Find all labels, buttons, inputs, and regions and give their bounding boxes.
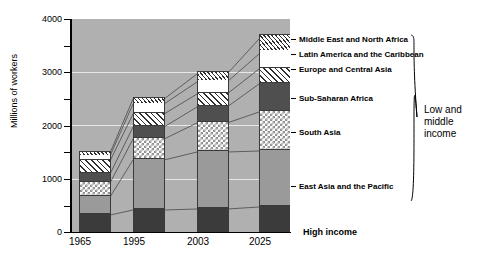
segment-2003-high-income xyxy=(198,208,228,231)
bar-1965[interactable] xyxy=(79,151,111,232)
segment-1965-south-asia xyxy=(80,182,110,196)
y-tick-1000 xyxy=(64,179,70,180)
segment-2003-sub-saharan-africa xyxy=(198,106,228,122)
leader-line-sub-saharan-africa xyxy=(291,98,296,99)
segment-1965-sub-saharan-africa xyxy=(80,173,110,182)
segment-1995-europe-and-central-asia xyxy=(134,113,164,126)
gridline-2000 xyxy=(72,125,290,126)
segment-1995-latin-america-and-the-caribbean xyxy=(134,103,164,113)
segment-2003-europe-and-central-asia xyxy=(198,93,228,106)
y-tick-2000 xyxy=(64,126,70,127)
y-axis-line xyxy=(70,19,72,233)
legend-item-south-asia[interactable]: South Asia xyxy=(299,128,340,137)
segment-1965-middle-east-and-north-africa xyxy=(80,152,110,155)
y-tick-label-1000: 1000 xyxy=(20,175,62,184)
segment-2025-south-asia xyxy=(260,111,290,150)
segment-1965-latin-america-and-the-caribbean xyxy=(80,155,110,160)
brace-label-line2: middle xyxy=(424,116,453,128)
segment-1965-high-income xyxy=(80,214,110,231)
segment-2025-east-asia-and-the-pacific xyxy=(260,150,290,206)
leader-line-south-asia xyxy=(291,132,296,133)
segment-1965-europe-and-central-asia xyxy=(80,160,110,173)
y-tick-4000 xyxy=(64,19,70,20)
y-axis-title: Millions of workers xyxy=(9,41,19,141)
leader-line-europe-central-asia xyxy=(291,69,296,70)
segment-1995-sub-saharan-africa xyxy=(134,126,164,138)
bar-1995[interactable] xyxy=(133,97,165,232)
legend-item-europe-and-central-asia[interactable]: Europe and Central Asia xyxy=(299,65,392,74)
segment-1965-east-asia-and-the-pacific xyxy=(80,196,110,214)
segment-2003-south-asia xyxy=(198,122,228,151)
segment-2025-sub-saharan-africa xyxy=(260,83,290,111)
segment-2025-high-income xyxy=(260,206,290,231)
y-tick-3500 xyxy=(64,46,70,47)
y-tick-label-4000: 4000 xyxy=(20,15,62,24)
segment-1995-high-income xyxy=(134,209,164,231)
x-tick-label-1965: 1965 xyxy=(54,236,106,247)
segment-1995-south-asia xyxy=(134,138,164,159)
y-tick-500 xyxy=(64,206,70,207)
legend-item-sub-saharan-africa[interactable]: Sub-Saharan Africa xyxy=(299,94,373,103)
segment-2025-latin-america-and-the-caribbean xyxy=(260,50,290,68)
x-tick-label-2025: 2025 xyxy=(234,236,286,247)
brace-label-line3: income xyxy=(424,128,456,140)
gridline-3000 xyxy=(72,72,290,73)
bar-2025[interactable] xyxy=(259,34,290,232)
leader-line-latin-america xyxy=(291,54,296,55)
segment-2025-middle-east-and-north-africa xyxy=(260,35,290,50)
segment-2003-latin-america-and-the-caribbean xyxy=(198,80,228,93)
x-tick-label-2003: 2003 xyxy=(172,236,224,247)
leader-line-east-asia-pacific xyxy=(291,186,296,187)
y-tick-1500 xyxy=(64,152,70,153)
legend-item-high-income[interactable]: High income xyxy=(303,228,357,237)
legend-item-latin-america-and-the-caribbean[interactable]: Latin America and the Caribbean xyxy=(299,50,424,59)
brace-label-line1: Low and xyxy=(424,104,462,116)
leader-line-middle-east xyxy=(291,39,296,40)
x-tick-label-1995: 1995 xyxy=(108,236,160,247)
legend-item-east-asia-and-the-pacific[interactable]: East Asia and the Pacific xyxy=(299,182,393,191)
y-tick-label-3000: 3000 xyxy=(20,68,62,77)
y-tick-label-2000: 2000 xyxy=(20,122,62,131)
segment-2003-middle-east-and-north-africa xyxy=(198,72,228,80)
legend-item-middle-east-and-north-africa[interactable]: Middle East and North Africa xyxy=(299,35,408,44)
chart-figure: 4000 3000 2000 1000 0 Millions of worker… xyxy=(0,0,480,272)
segment-1995-middle-east-and-north-africa xyxy=(134,98,164,103)
segment-2003-east-asia-and-the-pacific xyxy=(198,151,228,208)
x-axis-line xyxy=(70,232,291,233)
y-tick-2500 xyxy=(64,99,70,100)
segment-2025-europe-and-central-asia xyxy=(260,68,290,83)
segment-1995-east-asia-and-the-pacific xyxy=(134,159,164,209)
bar-2003[interactable] xyxy=(197,71,229,232)
plot-area xyxy=(72,19,290,232)
y-tick-3000 xyxy=(64,72,70,73)
low-and-middle-income-brace xyxy=(408,33,424,203)
